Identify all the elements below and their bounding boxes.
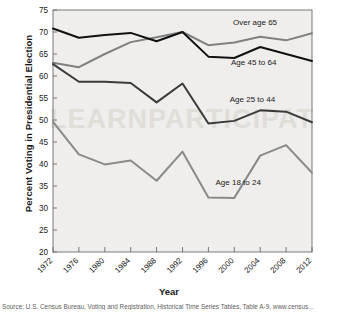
y-tick-label: 60 [39, 72, 49, 81]
y-tick-label: 75 [39, 6, 49, 15]
x-tick-label: 1996 [191, 256, 210, 275]
x-axis-title: Year [0, 286, 338, 297]
x-tick-label: 1980 [87, 256, 106, 275]
x-tick-label: 1976 [61, 256, 80, 275]
x-tick-label: 1984 [113, 256, 132, 275]
series-label-age-25-to-44: Age 25 to 44 [230, 95, 276, 104]
x-tick-label: 2008 [269, 256, 288, 275]
y-tick-label: 30 [39, 204, 49, 213]
chart-figure: Percent Voting in Presidential Election … [0, 0, 338, 313]
x-tick-label: 1992 [165, 256, 184, 275]
y-tick-label: 40 [39, 160, 49, 169]
x-tick-label: 2000 [217, 256, 236, 275]
y-tick-label: 55 [39, 94, 49, 103]
series-label-over-age-65: Over age 65 [233, 18, 278, 27]
watermark: LEARNPARTICIPAT [50, 104, 314, 134]
y-tick-label: 35 [39, 182, 49, 191]
y-tick-label: 50 [39, 116, 49, 125]
y-tick-label: 65 [39, 50, 49, 59]
y-tick-label: 20 [39, 248, 49, 257]
x-tick-label: 1988 [139, 256, 158, 275]
line-chart-canvas: LEARNPARTICIPAT 202530354045505560657075… [0, 0, 338, 290]
series-label-age-18-to-24: Age 18 to 24 [215, 178, 261, 187]
source-note: Source: U.S. Census Bureau, Voting and R… [2, 303, 338, 310]
series-label-age-45-to-64: Age 45 to 64 [231, 58, 277, 67]
y-tick-label: 45 [39, 138, 49, 147]
x-tick-label: 2012 [294, 256, 313, 275]
y-tick-label: 70 [39, 28, 49, 37]
x-tick-label: 2004 [243, 256, 262, 275]
svg-text:LEARNPARTICIPAT: LEARNPARTICIPAT [50, 104, 314, 134]
y-tick-label: 25 [39, 226, 49, 235]
x-tick-label: 1972 [35, 256, 54, 275]
